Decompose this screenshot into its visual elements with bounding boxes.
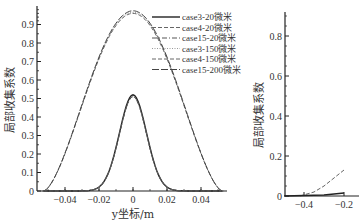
svg-text:case4-20微米: case4-20微米	[182, 22, 232, 33]
svg-text:case15-20微米: case15-20微米	[182, 32, 236, 43]
svg-text:case4-150微米: case4-150微米	[182, 53, 236, 64]
svg-text:0.3: 0.3	[22, 130, 35, 141]
svg-text:case15-200微米: case15-200微米	[182, 64, 241, 75]
right-curves	[284, 170, 344, 196]
left-y-ticks: 00.10.20.30.40.50.60.70.80.9	[22, 10, 42, 197]
svg-text:case3-150微米: case3-150微米	[182, 43, 236, 54]
right-chart: 00.20.40.60.8 −0.4−0.2 局部收集系数	[252, 12, 359, 210]
svg-text:0: 0	[131, 194, 136, 205]
svg-text:0.4: 0.4	[22, 112, 35, 123]
curve-1	[43, 97, 223, 191]
svg-text:−0.02: −0.02	[87, 194, 110, 205]
curve-0	[43, 95, 223, 191]
right-curve-0	[300, 170, 344, 196]
svg-text:0: 0	[29, 186, 34, 197]
svg-text:−0.04: −0.04	[53, 194, 76, 205]
svg-text:0.2: 0.2	[22, 149, 35, 160]
left-chart: 00.10.20.30.40.50.60.70.80.9 −0.04−0.020…	[3, 6, 241, 221]
svg-text:0.7: 0.7	[22, 56, 35, 67]
svg-text:0.4: 0.4	[270, 111, 283, 122]
svg-text:0: 0	[277, 191, 282, 202]
svg-text:0.6: 0.6	[270, 71, 283, 82]
legend: case3-20微米case4-20微米case15-20微米case3-150…	[152, 11, 241, 75]
svg-text:0.8: 0.8	[22, 38, 35, 49]
svg-text:0.5: 0.5	[22, 93, 35, 104]
svg-text:−0.2: −0.2	[335, 199, 353, 210]
svg-text:0.04: 0.04	[192, 194, 210, 205]
svg-text:0.1: 0.1	[22, 167, 35, 178]
svg-text:−0.4: −0.4	[295, 199, 313, 210]
left-x-ticks: −0.04−0.0200.020.04	[48, 187, 218, 205]
right-y-axis-label: 局部收集系数	[252, 82, 266, 148]
curve-2	[43, 97, 223, 191]
svg-text:case3-20微米: case3-20微米	[182, 11, 232, 22]
left-y-axis-label: 局部收集系数	[3, 67, 17, 133]
svg-text:0.6: 0.6	[22, 75, 35, 86]
svg-text:0.9: 0.9	[22, 19, 35, 30]
svg-text:0.2: 0.2	[270, 151, 283, 162]
svg-text:0.8: 0.8	[270, 31, 283, 42]
svg-text:0.02: 0.02	[158, 194, 176, 205]
left-x-axis-label: y坐标/m	[111, 207, 155, 221]
right-y-ticks: 00.20.40.60.8	[270, 16, 290, 202]
chart-canvas: 00.10.20.30.40.50.60.70.80.9 −0.04−0.020…	[0, 0, 359, 224]
